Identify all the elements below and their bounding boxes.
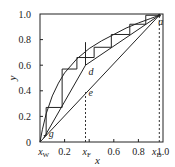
point-label-g: g: [49, 128, 54, 139]
rectifying-operating-line: [86, 15, 160, 65]
y-tick-label: 0: [26, 137, 31, 148]
x-tick-label: xF: [82, 146, 91, 159]
mccabe-thiele-diagram: xW0.2xF0.60.8xD1.000.20.40.60.81.0xyadeg: [0, 0, 175, 167]
x-tick-label: 1.0: [157, 146, 170, 157]
x-tick-label: 0.2: [58, 146, 71, 157]
plot-svg: xW0.2xF0.60.8xD1.000.20.40.60.81.0xyadeg: [0, 0, 175, 167]
y-tick-label: 1.0: [19, 9, 32, 20]
x-tick-label: xW: [37, 146, 49, 159]
diagonal: [40, 15, 159, 142]
plot-lines: [40, 14, 161, 142]
point-label-a: a: [158, 16, 163, 27]
x-tick-label: 0.6: [108, 146, 121, 157]
y-axis-title: y: [6, 75, 18, 81]
y-tick-label: 0.4: [19, 85, 32, 96]
y-tick-label: 0.2: [19, 111, 32, 122]
x-tick-label: 0.8: [132, 146, 145, 157]
point-label-e: e: [89, 87, 94, 98]
point-label-d: d: [89, 66, 95, 77]
y-tick-label: 0.8: [19, 34, 32, 45]
y-tick-label: 0.6: [19, 60, 32, 71]
x-axis-title: x: [94, 154, 100, 166]
